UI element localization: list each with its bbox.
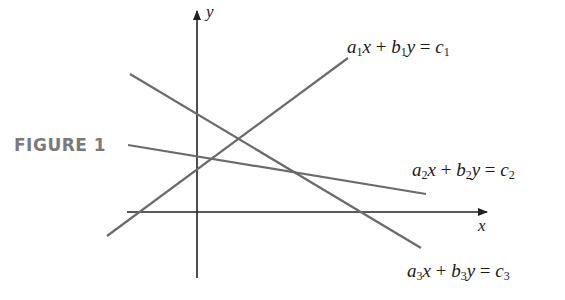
figure-label: FIGURE 1 (14, 135, 106, 155)
line-3 (130, 74, 421, 248)
x-axis-label: x (478, 216, 486, 236)
equation-line-3: a3x + b3y = c3 (407, 260, 510, 284)
y-axis-label: y (206, 2, 214, 22)
equation-line-2: a2x + b2y = c2 (412, 159, 515, 183)
equation-line-1: a1x + b1y = c1 (347, 36, 450, 60)
